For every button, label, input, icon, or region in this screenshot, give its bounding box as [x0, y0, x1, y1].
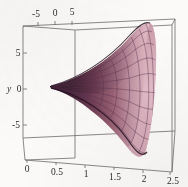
z-tick-label-5: 5: [70, 7, 75, 17]
box-edge-floor-depth-left: [23, 138, 25, 160]
box-edge-top-depth-left: [23, 26, 75, 30]
y-tick-label-0: 0: [17, 84, 22, 94]
x-tick-label-0: 0: [25, 164, 30, 174]
x-tick-label-1: 1: [84, 169, 89, 179]
plot-canvas: -5 0 5 5 0 -5 y 0 0.5 1 1.5 2 2.5: [0, 0, 188, 187]
box-edge-floor-front: [25, 160, 172, 172]
z-tick-label-neg5: -5: [32, 9, 40, 19]
box-edge-floor-depth-right: [172, 131, 175, 172]
box-edge-floor-diagonal: [25, 158, 75, 160]
box-edge-back-bottom: [23, 131, 175, 138]
y-tick-label-5: 5: [16, 48, 21, 58]
z-tick-label-0: 0: [53, 8, 58, 18]
x-tick-label-0p5: 0.5: [51, 167, 63, 177]
x-tick-label-2: 2: [142, 174, 147, 184]
box-edge-top-depth-right: [172, 19, 175, 25]
box-edge-back-top: [23, 19, 175, 26]
y-tick-label-neg5: -5: [12, 120, 20, 130]
x-tick-label-2p5: 2.5: [167, 176, 179, 186]
funnel-surface: [50, 22, 156, 156]
surface-plot-figure: -5 0 5 5 0 -5 y 0 0.5 1 1.5 2 2.5: [0, 0, 188, 187]
y-axis-title: y: [6, 84, 12, 94]
y-axis-left-ticks: [23, 53, 27, 125]
x-tick-label-1p5: 1.5: [109, 172, 121, 182]
box-edge-top-front: [75, 25, 172, 30]
